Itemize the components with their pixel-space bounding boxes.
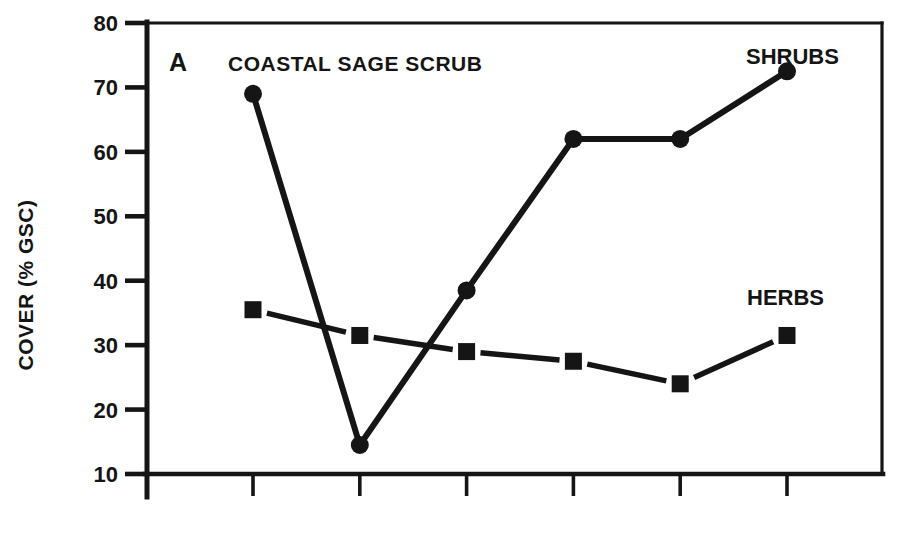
y-tick-label: 30 xyxy=(94,333,118,358)
y-axis-ticks xyxy=(125,23,147,474)
y-tick-label: 20 xyxy=(94,398,118,423)
shrubs-circle-marker xyxy=(244,85,262,103)
chart-title: COASTAL SAGE SCRUB xyxy=(228,52,482,75)
y-tick-label: 40 xyxy=(94,269,118,294)
herbs-label: HERBS xyxy=(747,285,824,310)
y-axis-tick-labels: 1020304050607080 xyxy=(94,11,118,487)
shrubs-circle-marker xyxy=(458,281,476,299)
herbs-square-marker xyxy=(672,375,689,392)
shrubs-line xyxy=(253,71,787,445)
shrubs-circle-marker xyxy=(351,436,369,454)
herbs-square-marker xyxy=(351,327,368,344)
y-tick-label: 70 xyxy=(94,75,118,100)
panel-label: A xyxy=(169,48,187,76)
herbs-line-segment xyxy=(694,342,773,378)
shrubs-circle-marker xyxy=(671,130,689,148)
herbs-square-marker xyxy=(565,353,582,370)
shrubs-label: SHRUBS xyxy=(746,44,839,69)
y-axis-title: COVER (% GSC) xyxy=(14,199,37,370)
herbs-line-segment xyxy=(480,353,559,360)
shrubs-series xyxy=(244,62,796,454)
herbs-line-segment xyxy=(267,313,346,332)
herbs-line-segment xyxy=(374,338,453,350)
x-axis-ticks xyxy=(253,474,787,496)
herbs-square-marker xyxy=(458,343,475,360)
herbs-square-marker xyxy=(779,327,796,344)
y-tick-label: 50 xyxy=(94,204,118,229)
herbs-square-marker xyxy=(245,301,262,318)
figure-panel-a: 1020304050607080 A COASTAL SAGE SCRUB SH… xyxy=(0,0,900,544)
herbs-line-segment xyxy=(587,364,666,381)
y-tick-label: 80 xyxy=(94,11,118,36)
y-tick-label: 10 xyxy=(94,462,118,487)
y-tick-label: 60 xyxy=(94,140,118,165)
cover-chart: 1020304050607080 A COASTAL SAGE SCRUB SH… xyxy=(0,0,900,544)
shrubs-circle-marker xyxy=(564,130,582,148)
